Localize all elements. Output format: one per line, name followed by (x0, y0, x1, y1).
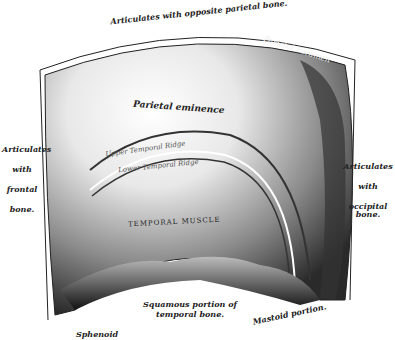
label-line: Articulates (342, 162, 394, 170)
label-squamous-portion: Squamous portion of temporal bone. (140, 300, 240, 318)
label-line: Articulates (2, 145, 42, 153)
label-occipital-articulation: Articulates with occipital bone. (342, 162, 394, 218)
label-line: temporal bone. (140, 310, 240, 318)
label-line: with (342, 182, 394, 190)
label-frontal-articulation: Articulates with frontal bone. (2, 145, 42, 213)
label-line: Squamous portion of (140, 300, 240, 308)
label-line: with (2, 165, 42, 173)
label-line: bone. (2, 205, 42, 213)
label-line: occipital bone. (342, 202, 394, 218)
parietal-bone-diagram: Articulates with opposite parietal bone.… (0, 0, 395, 340)
bone-illustration (0, 0, 395, 340)
label-sphenoid: Sphenoid (76, 330, 118, 338)
label-line: frontal (2, 185, 42, 193)
